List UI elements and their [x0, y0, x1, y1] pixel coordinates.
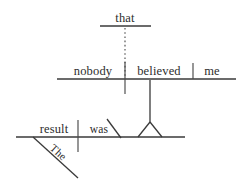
word-that: that: [115, 11, 135, 25]
clause-stem-group: [138, 80, 162, 137]
word-nobody: nobody: [74, 64, 113, 78]
tripod-leg-left: [138, 122, 150, 137]
word-believed: believed: [137, 64, 181, 78]
predicate-nominative-backslash: [107, 119, 121, 138]
subordinate-marker-group: that: [100, 11, 151, 26]
word-was: was: [90, 123, 109, 135]
tripod-leg-right: [150, 122, 162, 137]
word-result: result: [40, 122, 69, 136]
word-the-modifier: The: [48, 142, 69, 163]
main-clause-group: result was The: [16, 119, 185, 178]
sentence-diagram-svg: that nobody believed me result: [0, 0, 239, 185]
noun-clause-group: nobody believed me: [57, 62, 236, 94]
word-me: me: [204, 64, 220, 78]
sentence-diagram-canvas: that nobody believed me result: [0, 0, 239, 185]
